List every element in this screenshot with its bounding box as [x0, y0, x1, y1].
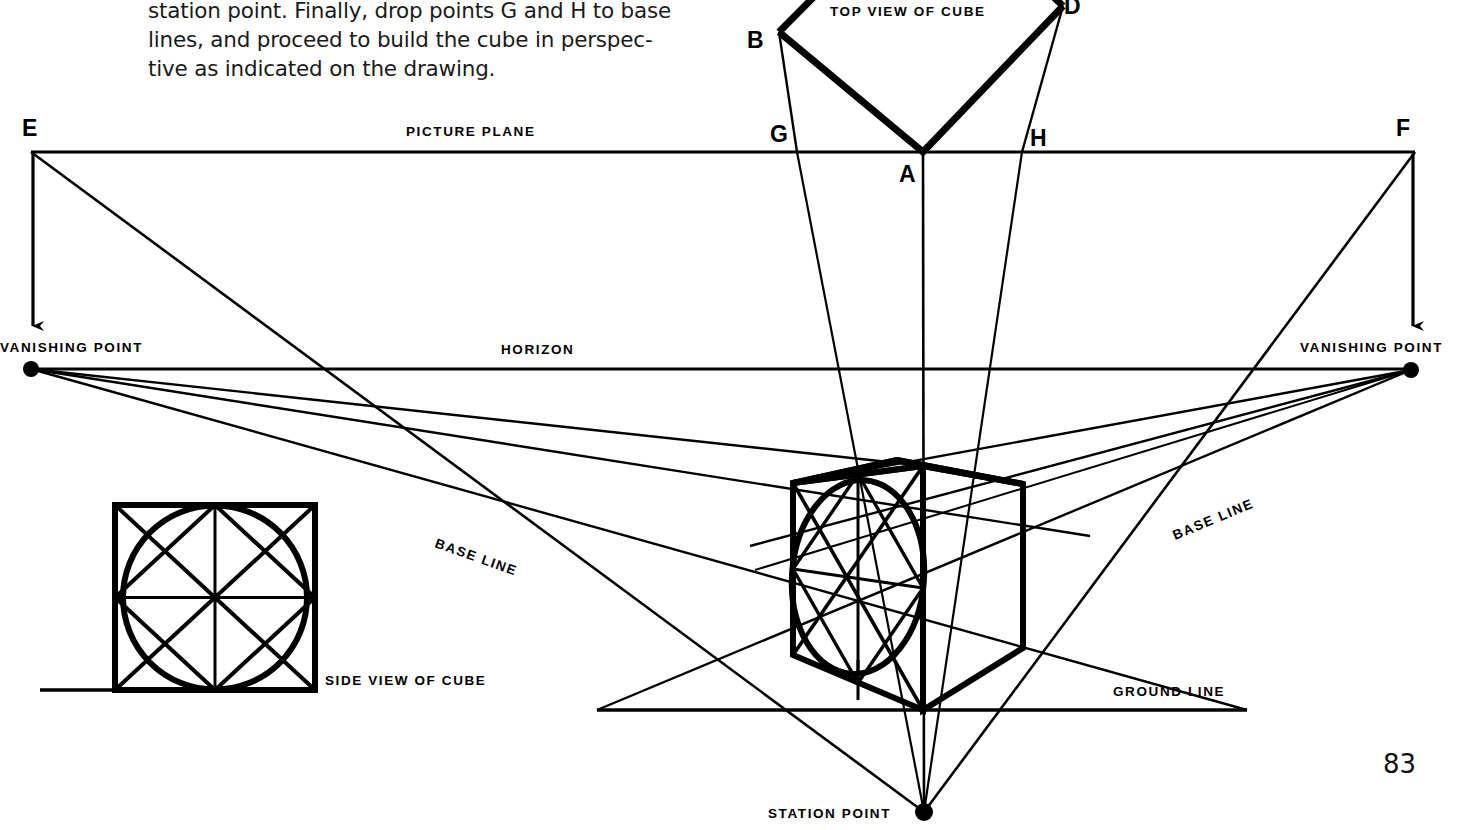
page-number: 83: [1383, 749, 1416, 779]
base-line-left-label: BASE LINE: [433, 536, 519, 579]
ground-line-label: GROUND LINE: [1113, 684, 1225, 699]
station-point-label: STATION POINT: [768, 806, 891, 821]
picture-plane-label: PICTURE PLANE: [406, 124, 536, 139]
point-label-d: D: [1064, 0, 1081, 19]
perspective-cube: [785, 460, 1023, 710]
horizon-group: HORIZON VANISHING POINT VANISHING POINT: [0, 340, 1443, 378]
point-label-b: B: [747, 27, 764, 53]
cube-face-halfdiag-br: [858, 588, 923, 683]
side-view-label: SIDE VIEW OF CUBE: [325, 673, 486, 688]
side-view-of-cube: SIDE VIEW OF CUBE: [40, 505, 486, 690]
point-label-g: G: [770, 121, 788, 147]
cube-top-edge-right: [897, 460, 1023, 484]
vanishing-convergence-lines: [31, 369, 1411, 710]
top-view-label: TOP VIEW OF CUBE: [830, 4, 986, 19]
point-label-e: E: [22, 115, 37, 141]
vanishing-drop-lines: [33, 154, 1413, 326]
station-point-group: STATION POINT: [768, 803, 933, 821]
vanishing-point-right-label: VANISHING POINT: [1300, 340, 1443, 355]
station-point-dot: [915, 803, 933, 821]
horizon-label: HORIZON: [501, 342, 574, 357]
point-label-h: H: [1030, 125, 1047, 151]
top-view-plan-edges: [779, 6, 1063, 152]
point-label-a: A: [899, 161, 916, 187]
picture-plane-group: PICTURE PLANE E F G H A: [22, 115, 1415, 187]
vanishing-point-left-label: VANISHING POINT: [0, 340, 143, 355]
point-label-f: F: [1396, 115, 1410, 141]
vpl-base-line: [31, 369, 1247, 710]
base-line-right-label: BASE LINE: [1170, 496, 1256, 543]
perspective-diagram: TOP VIEW OF CUBE B D PICTURE PLANE E F G…: [0, 0, 1457, 830]
visual-rays: [31, 152, 1415, 812]
perspective-drawing-page: station point. Finally, drop points G an…: [0, 0, 1457, 830]
vpr-to-cube-top: [793, 370, 1411, 483]
vpl-to-cube-top: [31, 369, 925, 466]
